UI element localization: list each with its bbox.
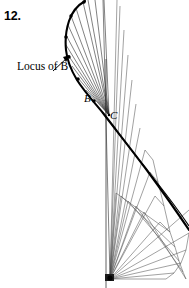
locus-of-b-label: Locus of B	[17, 61, 68, 73]
point-b-label: B	[84, 93, 91, 104]
figure-container: 12. Locus of B B C	[0, 0, 189, 288]
ground-pivot	[105, 274, 114, 281]
coupler-end-links	[145, 150, 189, 279]
extended-arms	[95, 0, 110, 279]
point-c-label: C	[110, 110, 117, 121]
linkage-diagram	[0, 0, 189, 288]
problem-number: 12.	[4, 10, 21, 23]
ground-fan-rays	[110, 0, 189, 279]
